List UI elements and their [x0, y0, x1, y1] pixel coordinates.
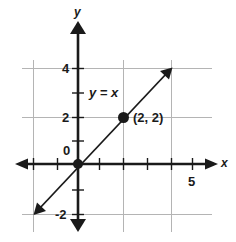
y-axis-arrow-up	[70, 21, 86, 34]
equation-label: y = x	[89, 86, 118, 99]
x-axis	[15, 158, 218, 170]
point-marker-origin	[73, 159, 83, 169]
x-tick-label-5: 5	[188, 175, 195, 188]
y-tick-label-neg2: -2	[55, 208, 67, 221]
y-tick-label-0: 0	[63, 144, 70, 157]
point-marker-2-2	[118, 112, 129, 123]
point-label-2-2: (2, 2)	[133, 111, 163, 124]
x-axis-arrow-left	[15, 159, 28, 170]
graph-canvas	[0, 0, 236, 242]
y-axis-label: y	[74, 6, 81, 18]
y-tick-label-4: 4	[62, 62, 69, 75]
y-axis	[70, 21, 86, 232]
x-axis-arrow-right	[205, 159, 218, 170]
y-tick-label-2: 2	[62, 111, 69, 124]
coordinate-plane-figure: y x 4 2 0 -2 5 y = x (2, 2)	[0, 0, 236, 242]
x-axis-label: x	[221, 157, 228, 169]
y-axis-arrow-down	[70, 219, 86, 232]
